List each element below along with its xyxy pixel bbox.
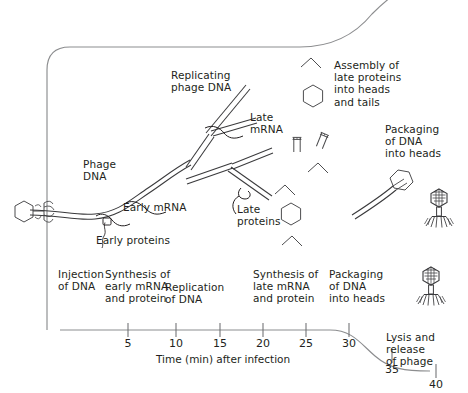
infecting-phage-icon xyxy=(15,201,54,222)
label-late-proteins: Late proteins xyxy=(237,203,281,227)
label-early-mrna: Early mRNA xyxy=(123,201,186,213)
stage-label-replication: Replication of DNA xyxy=(165,281,224,305)
late-protein-parts xyxy=(275,58,329,246)
replicating-dna-fork-upper xyxy=(186,85,257,170)
axis-tick-5: 5 xyxy=(115,338,141,350)
released-phage-icon xyxy=(417,267,446,306)
dna-packaging-into-head xyxy=(352,170,413,219)
label-packaging-of-dna-into-heads: Packaging of DNA into heads xyxy=(385,123,441,160)
axis-tick-10: 10 xyxy=(163,338,189,350)
axis-title: Time (min) after infection xyxy=(156,353,290,365)
axis-tick-35: 35 xyxy=(379,364,405,376)
stage-label-packaging: Packaging of DNA into heads xyxy=(329,268,385,305)
label-replicating-phage-dna: Replicating phage DNA xyxy=(171,69,231,93)
axis-tick-25: 25 xyxy=(293,338,319,350)
label-early-proteins: Early proteins xyxy=(96,234,170,246)
assembled-phage-icon xyxy=(425,189,454,228)
stage-label-injection: Injection of DNA xyxy=(58,268,104,292)
stage-label-early-synthesis: Synthesis of early mRNA and protein xyxy=(105,268,170,305)
axis-tick-30: 30 xyxy=(336,338,362,350)
axis-tick-15: 15 xyxy=(207,338,233,350)
label-assembly-of-late-proteins: Assembly of late proteins into heads and… xyxy=(334,59,401,108)
label-late-mrna: Late mRNA xyxy=(250,111,283,135)
axis-tick-40: 40 xyxy=(423,379,449,391)
stage-label-late-synthesis: Synthesis of late mRNA and protein xyxy=(253,268,318,305)
axis-tick-20: 20 xyxy=(250,338,276,350)
label-phage-dna: Phage DNA xyxy=(83,158,116,182)
